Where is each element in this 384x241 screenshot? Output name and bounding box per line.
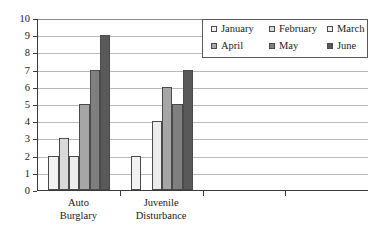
y-tick-mark bbox=[33, 19, 37, 20]
y-tick-mark bbox=[33, 157, 37, 158]
y-axis-tick-label: 7 bbox=[8, 66, 30, 77]
legend-label: January bbox=[221, 24, 254, 35]
bar bbox=[131, 156, 141, 190]
bar bbox=[152, 121, 162, 190]
bar-chart: AutoBurglaryJuvenileDisturbance JanuaryF… bbox=[0, 0, 384, 241]
x-tick-mark bbox=[120, 191, 121, 196]
y-tick-mark bbox=[33, 122, 37, 123]
legend-swatch-icon bbox=[327, 43, 333, 49]
gridline bbox=[38, 88, 368, 89]
x-tick-mark bbox=[285, 191, 286, 196]
legend-item[interactable]: February bbox=[269, 24, 317, 35]
legend-label: June bbox=[337, 41, 356, 52]
bar bbox=[90, 70, 100, 190]
legend-item[interactable]: January bbox=[211, 24, 254, 35]
legend-swatch-icon bbox=[269, 26, 275, 32]
y-axis-tick-label: 2 bbox=[8, 152, 30, 163]
category-label: JuvenileDisturbance bbox=[120, 197, 203, 222]
category-label: AutoBurglary bbox=[37, 197, 120, 222]
y-axis-tick-label: 1 bbox=[8, 169, 30, 180]
bar bbox=[183, 70, 193, 190]
y-axis-tick-label: 4 bbox=[8, 117, 30, 128]
y-axis-tick-label: 6 bbox=[8, 83, 30, 94]
y-tick-mark bbox=[33, 191, 37, 192]
legend-swatch-icon bbox=[327, 26, 333, 32]
category-label-line: Burglary bbox=[37, 210, 120, 223]
legend-item[interactable]: May bbox=[269, 41, 298, 52]
y-tick-mark bbox=[33, 36, 37, 37]
category-label-line: Disturbance bbox=[120, 210, 203, 223]
y-axis-tick-label: 5 bbox=[8, 100, 30, 111]
legend-swatch-icon bbox=[211, 43, 217, 49]
bar bbox=[162, 87, 172, 190]
y-tick-mark bbox=[33, 105, 37, 106]
legend-item[interactable]: June bbox=[327, 41, 356, 52]
legend-label: May bbox=[279, 41, 298, 52]
legend-swatch-icon bbox=[269, 43, 275, 49]
y-tick-mark bbox=[33, 88, 37, 89]
bar bbox=[59, 138, 69, 190]
y-axis-tick-label: 8 bbox=[8, 48, 30, 59]
y-tick-mark bbox=[33, 71, 37, 72]
legend-swatch-icon bbox=[211, 26, 217, 32]
bar bbox=[100, 35, 110, 190]
y-tick-mark bbox=[33, 174, 37, 175]
bar bbox=[48, 156, 58, 190]
y-axis-tick-label: 0 bbox=[8, 186, 30, 197]
bar bbox=[79, 104, 89, 190]
y-tick-mark bbox=[33, 139, 37, 140]
category-label-line: Auto bbox=[37, 197, 120, 210]
y-axis-tick-label: 9 bbox=[8, 31, 30, 42]
bar bbox=[69, 156, 79, 190]
bar bbox=[172, 104, 182, 190]
y-tick-mark bbox=[33, 53, 37, 54]
legend-label: February bbox=[279, 24, 317, 35]
legend-item[interactable]: March bbox=[327, 24, 364, 35]
legend-label: April bbox=[221, 41, 243, 52]
x-tick-mark bbox=[203, 191, 204, 196]
chart-legend: JanuaryFebruaryMarchAprilMayJune bbox=[202, 19, 368, 58]
gridline bbox=[38, 71, 368, 72]
legend-label: March bbox=[337, 24, 364, 35]
legend-item[interactable]: April bbox=[211, 41, 243, 52]
y-axis-tick-label: 3 bbox=[8, 134, 30, 145]
y-axis-tick-label: 10 bbox=[8, 14, 30, 25]
category-label-line: Juvenile bbox=[120, 197, 203, 210]
